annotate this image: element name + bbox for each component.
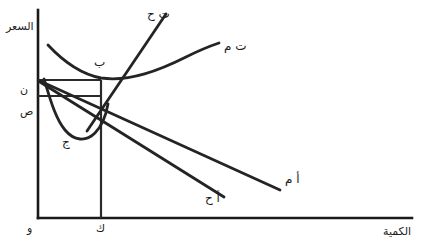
lower-curve-label-j: ج	[62, 136, 70, 148]
min-point-label-b: ب	[94, 56, 105, 68]
average-cost-label: ت م	[224, 40, 247, 52]
marginal-revenue-label: أ ح	[205, 192, 220, 204]
average-revenue-line	[40, 81, 280, 190]
x-tick-label-k: ك	[96, 223, 105, 234]
y-tick-label-s: ص	[20, 106, 33, 117]
x-axis-label: الكمية	[383, 226, 411, 237]
economics-diagram: السعر الكمية و ك ن ص ت ح ت م ب ج أ ح أ م	[0, 0, 421, 246]
average-revenue-label: أ م	[285, 173, 300, 185]
diagram-canvas	[0, 0, 421, 246]
origin-label: و	[27, 223, 32, 234]
y-axis-label: السعر	[6, 21, 34, 32]
y-tick-label-n: ن	[20, 84, 28, 95]
total-cost-line	[87, 14, 166, 131]
total-cost-label: ت ح	[147, 8, 170, 20]
